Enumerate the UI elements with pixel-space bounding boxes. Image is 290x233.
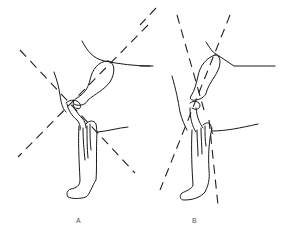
panel-a-rear-contour	[54, 72, 66, 112]
panel-b-axis-line-1	[177, 15, 204, 110]
panel-b-lower-shaft	[180, 128, 212, 200]
panel-b-belly-contour	[212, 124, 258, 131]
panel-b-rear-contour	[172, 76, 187, 130]
panel-a-belly-contour	[98, 127, 128, 132]
diagram-canvas: A B	[0, 0, 290, 233]
panel-a	[18, 25, 150, 199]
panel-b	[140, 8, 275, 205]
panel-a-upper-contour	[82, 41, 150, 66]
panel-a-lower-shaft	[67, 126, 97, 199]
panel-b-upper-contour	[206, 42, 275, 66]
panel-a-tendons	[83, 124, 91, 160]
panel-a-axis-line-2	[20, 50, 135, 173]
panel-a-label: A	[76, 217, 81, 224]
panel-b-label: B	[192, 217, 197, 224]
panel-b-hock	[203, 123, 213, 134]
panel-b-tendons	[197, 126, 206, 156]
panel-a-upper-segment	[73, 61, 113, 105]
panel-b-axis-line-4	[140, 8, 156, 25]
panel-b-axis-line-2	[160, 15, 230, 190]
panel-b-axis-line-3	[209, 120, 218, 205]
